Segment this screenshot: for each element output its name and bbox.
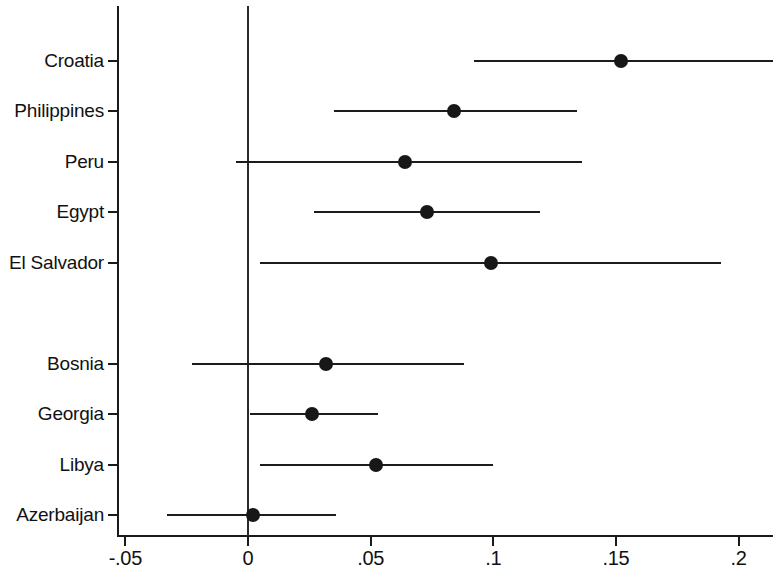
y-tick-label-el-salvador: El Salvador xyxy=(9,252,104,274)
y-tick-label-egypt: Egypt xyxy=(56,201,104,223)
point-estimate-philippines xyxy=(447,104,461,118)
y-tick-bosnia xyxy=(108,363,118,365)
x-tick-4 xyxy=(615,537,617,546)
y-tick-label-libya: Libya xyxy=(60,454,104,476)
y-tick-label-philippines: Philippines xyxy=(14,100,104,122)
x-axis-line xyxy=(117,535,773,537)
x-tick-1 xyxy=(247,537,249,546)
y-tick-label-bosnia: Bosnia xyxy=(47,353,104,375)
x-tick-5 xyxy=(738,537,740,546)
x-tick-label-0: -.05 xyxy=(109,547,142,570)
y-tick-azerbaijan xyxy=(108,514,118,516)
x-tick-label-2: .05 xyxy=(357,547,384,570)
y-tick-label-azerbaijan: Azerbaijan xyxy=(16,504,104,526)
x-tick-2 xyxy=(370,537,372,546)
x-tick-label-1: 0 xyxy=(243,547,254,570)
point-estimate-georgia xyxy=(305,407,319,421)
point-estimate-egypt xyxy=(420,205,434,219)
x-tick-label-3: .1 xyxy=(485,547,501,570)
y-axis-line xyxy=(117,6,119,536)
y-tick-philippines xyxy=(108,110,118,112)
x-tick-0 xyxy=(124,537,126,546)
point-estimate-libya xyxy=(369,458,383,472)
point-estimate-el-salvador xyxy=(484,256,498,270)
y-tick-croatia xyxy=(108,60,118,62)
x-tick-label-4: .15 xyxy=(602,547,629,570)
y-tick-label-peru: Peru xyxy=(65,151,104,173)
y-tick-el-salvador xyxy=(108,262,118,264)
x-tick-3 xyxy=(492,537,494,546)
point-estimate-azerbaijan xyxy=(246,508,260,522)
zero-reference-line xyxy=(247,6,249,536)
forest-plot: -.050.05.1.15.2 CroatiaPhilippinesPeruEg… xyxy=(0,0,775,574)
y-tick-peru xyxy=(108,161,118,163)
y-tick-egypt xyxy=(108,211,118,213)
point-estimate-peru xyxy=(398,155,412,169)
y-tick-libya xyxy=(108,464,118,466)
point-estimate-croatia xyxy=(614,54,628,68)
y-tick-label-georgia: Georgia xyxy=(38,403,104,425)
point-estimate-bosnia xyxy=(319,357,333,371)
y-tick-georgia xyxy=(108,413,118,415)
y-tick-label-croatia: Croatia xyxy=(44,50,104,72)
x-tick-label-5: .2 xyxy=(731,547,747,570)
